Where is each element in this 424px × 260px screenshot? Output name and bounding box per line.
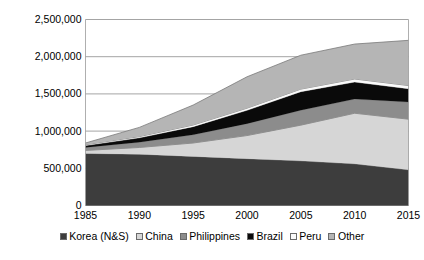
legend-swatch-icon [60, 233, 67, 240]
legend-item[interactable]: Philippines [180, 231, 240, 242]
legend-label: Philippines [189, 231, 240, 242]
legend-item[interactable]: Korea (N&S) [60, 231, 129, 242]
legend-swatch-icon [328, 233, 335, 240]
y-axis-tick-label: 500,000 [44, 163, 82, 174]
legend-label: Peru [299, 231, 321, 242]
legend-item[interactable]: Peru [290, 231, 322, 242]
y-axis-tick-label: 2,000,000 [35, 51, 82, 62]
legend-item[interactable]: China [136, 231, 173, 242]
plot-area: 0500,0001,000,0001,500,0002,000,0002,500… [0, 0, 424, 224]
legend-label: Korea (N&S) [69, 231, 129, 242]
stacked-area-chart: 0500,0001,000,0001,500,0002,000,0002,500… [0, 0, 424, 260]
plot-svg [0, 0, 424, 224]
legend-swatch-icon [180, 233, 187, 240]
legend-swatch-icon [247, 233, 254, 240]
area-series-group [86, 20, 409, 206]
x-axis-tick-label: 2005 [281, 210, 321, 221]
x-axis-tick-label: 1990 [119, 210, 159, 221]
y-axis-tick-label: 2,500,000 [35, 14, 82, 25]
legend-item[interactable]: Other [328, 231, 364, 242]
y-axis-tick-label: 1,000,000 [35, 126, 82, 137]
y-axis-tick-label: 1,500,000 [35, 88, 82, 99]
x-axis-tick-label: 2015 [389, 210, 424, 221]
legend-label: Brazil [257, 231, 283, 242]
legend-label: Other [338, 231, 364, 242]
x-axis-tick-label: 1985 [66, 210, 106, 221]
legend-swatch-icon [290, 233, 297, 240]
x-axis-tick-label: 2010 [335, 210, 375, 221]
legend-label: China [145, 231, 172, 242]
legend-swatch-icon [136, 233, 143, 240]
chart-legend: Korea (N&S)ChinaPhilippinesBrazilPeruOth… [0, 231, 424, 242]
x-axis-tick-label: 2000 [227, 210, 267, 221]
x-axis-tick-label: 1995 [173, 210, 213, 221]
legend-item[interactable]: Brazil [247, 231, 283, 242]
